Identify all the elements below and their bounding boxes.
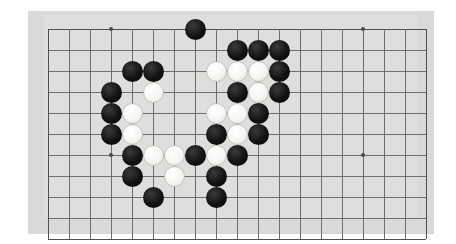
stone-black[interactable]: [248, 40, 269, 61]
stone-white[interactable]: [143, 82, 164, 103]
stone-white[interactable]: [164, 166, 185, 187]
stone-black[interactable]: [101, 103, 122, 124]
stone-white[interactable]: [227, 61, 248, 82]
stone-black[interactable]: [206, 124, 227, 145]
stone-black[interactable]: [143, 61, 164, 82]
stone-black[interactable]: [206, 187, 227, 208]
stone-white[interactable]: [248, 82, 269, 103]
stone-white[interactable]: [143, 145, 164, 166]
stone-white[interactable]: [227, 124, 248, 145]
stone-black[interactable]: [122, 61, 143, 82]
stone-white[interactable]: [248, 61, 269, 82]
stone-black[interactable]: [101, 124, 122, 145]
stone-black[interactable]: [206, 166, 227, 187]
stone-white[interactable]: [206, 61, 227, 82]
stone-black[interactable]: [227, 82, 248, 103]
stone-black[interactable]: [227, 145, 248, 166]
stone-black[interactable]: [185, 145, 206, 166]
screenshot-root: [0, 0, 456, 244]
stone-black[interactable]: [143, 187, 164, 208]
stone-black[interactable]: [227, 40, 248, 61]
stone-black[interactable]: [122, 166, 143, 187]
stone-black[interactable]: [101, 82, 122, 103]
stone-black[interactable]: [248, 124, 269, 145]
stone-black[interactable]: [185, 19, 206, 40]
stone-white[interactable]: [206, 145, 227, 166]
stone-black[interactable]: [269, 82, 290, 103]
stone-white[interactable]: [122, 103, 143, 124]
stone-white[interactable]: [206, 103, 227, 124]
stone-white[interactable]: [122, 124, 143, 145]
stone-black[interactable]: [248, 103, 269, 124]
stone-black[interactable]: [122, 145, 143, 166]
stone-black[interactable]: [269, 61, 290, 82]
stone-white[interactable]: [227, 103, 248, 124]
stone-white[interactable]: [164, 145, 185, 166]
stone-black[interactable]: [269, 40, 290, 61]
board-stones[interactable]: [0, 0, 456, 244]
